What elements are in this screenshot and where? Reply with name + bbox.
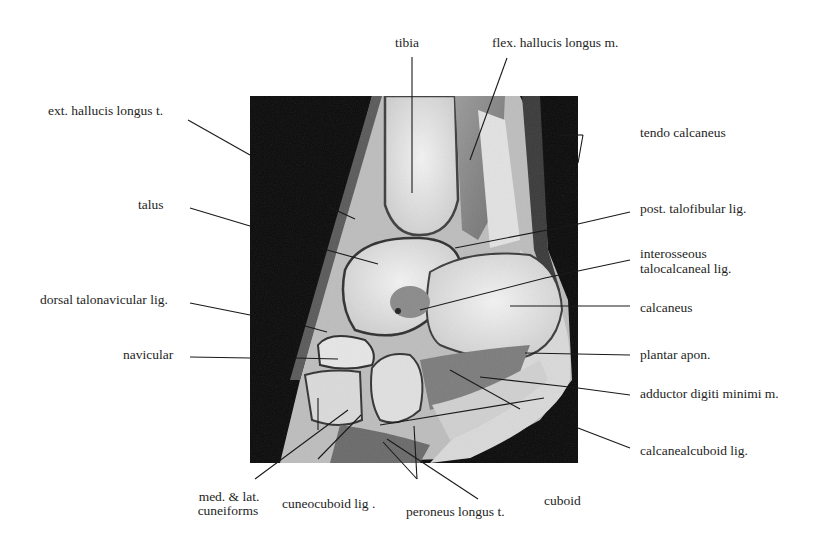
mri-image — [0, 0, 828, 555]
label-flex-hallucis-longus: flex. hallucis longus m. — [492, 35, 618, 50]
label-talocalcaneal: talocalcaneal lig. — [640, 261, 731, 276]
label-tendo-calcaneus: tendo calcaneus — [640, 125, 726, 140]
label-calcaneus: calcaneus — [640, 300, 692, 315]
label-cuneiforms-line2: cuneiforms — [183, 503, 273, 518]
label-cuboid: cuboid — [544, 493, 581, 508]
labeled-mri-figure: tibia flex. hallucis longus m. ext. hall… — [0, 0, 828, 555]
label-peroneus-longus: peroneus longus t. — [406, 504, 505, 519]
label-talus: talus — [138, 197, 164, 212]
label-calcanealcuboid: calcanealcuboid lig. — [640, 443, 748, 458]
label-plantar-apon: plantar apon. — [640, 347, 710, 362]
label-cuneiforms-line1: med. & lat. — [188, 489, 270, 504]
label-navicular: navicular — [123, 347, 173, 362]
label-tibia: tibia — [395, 35, 419, 50]
label-post-talofibular: post. talofibular lig. — [640, 201, 746, 216]
label-adductor-digiti-minimi: adductor digiti minimi m. — [640, 386, 779, 401]
label-cuneocuboid: cuneocuboid lig . — [282, 496, 375, 511]
label-dorsal-talonavicular: dorsal talonavicular lig. — [40, 292, 168, 307]
label-ext-hallucis-longus: ext. hallucis longus t. — [48, 103, 163, 118]
label-interosseous: interosseous — [640, 246, 707, 261]
